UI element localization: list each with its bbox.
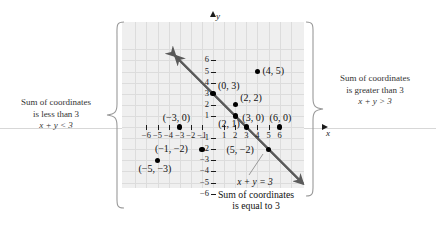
- y-axis-tick: [211, 149, 216, 150]
- data-point-label: (−3, 0): [163, 112, 190, 123]
- y-axis-tick: [211, 83, 216, 84]
- bottom-caption-line2: is equal to 3: [196, 200, 316, 212]
- y-axis-tick: [211, 138, 216, 139]
- annotation-right-line2: is greater than 3: [322, 85, 428, 97]
- y-tick-label: −6: [195, 189, 209, 198]
- annotation-left-line1: Sum of coordinates: [10, 97, 102, 109]
- data-point-label: (5, −2): [227, 144, 254, 155]
- y-tick-label: −5: [195, 178, 209, 187]
- annotation-left-equation: x + y < 3: [10, 120, 102, 132]
- data-point: [244, 124, 249, 129]
- data-point-label: (6, 0): [270, 112, 292, 123]
- data-point: [277, 124, 282, 129]
- y-axis-tick: [211, 183, 216, 184]
- data-point: [177, 124, 182, 129]
- data-point-label: (0, 3): [218, 80, 240, 91]
- y-axis-tick: [211, 60, 216, 61]
- figure-root: Sum of coordinates is less than 3 x + y …: [0, 0, 436, 227]
- annotation-right: Sum of coordinates is greater than 3 x +…: [322, 73, 428, 108]
- y-tick-label: 5: [195, 67, 209, 76]
- data-point-label: (4, 5): [262, 65, 284, 76]
- gridline-horizontal: [122, 49, 304, 50]
- line-equation-caption: x + y = 3: [215, 177, 295, 189]
- y-tick-label: −3: [195, 155, 209, 164]
- data-point: [210, 91, 215, 96]
- x-axis-tick: [169, 125, 170, 130]
- y-tick-label: 2: [195, 100, 209, 109]
- y-axis-tick: [211, 105, 216, 106]
- annotation-right-line1: Sum of coordinates: [322, 73, 428, 85]
- annotation-left: Sum of coordinates is less than 3 x + y …: [10, 97, 102, 132]
- data-point: [199, 147, 204, 152]
- x-axis-tick: [269, 125, 270, 130]
- x-axis-label: x: [326, 128, 330, 138]
- x-axis-tick: [257, 125, 258, 130]
- data-point: [266, 147, 271, 152]
- x-axis-tick: [158, 125, 159, 130]
- data-point-label: (2, 1): [218, 118, 240, 129]
- y-axis-label: y: [216, 11, 220, 21]
- y-tick-label: −1: [195, 133, 209, 142]
- y-axis-tick: [211, 194, 216, 195]
- data-point-label: (−1, −2): [155, 143, 188, 154]
- y-tick-label: 3: [195, 89, 209, 98]
- right-brace: [304, 20, 326, 198]
- x-tick-label: 6: [273, 131, 287, 140]
- y-axis-tick: [211, 72, 216, 73]
- x-axis-tick: [191, 125, 192, 130]
- data-point-label: (2, 2): [240, 92, 262, 103]
- data-point-label: (−5, −3): [139, 163, 172, 174]
- y-tick-label: 6: [195, 55, 209, 64]
- x-axis-tick: [202, 125, 203, 130]
- annotation-left-line2: is less than 3: [10, 109, 102, 121]
- y-tick-label: 4: [195, 78, 209, 87]
- x-axis-tick: [146, 125, 147, 130]
- data-point-label: (3, 0): [242, 112, 264, 123]
- y-tick-label: 1: [195, 111, 209, 120]
- y-axis-tick: [211, 171, 216, 172]
- left-brace: [104, 20, 126, 210]
- y-axis-tick: [211, 116, 216, 117]
- y-axis-tick: [211, 160, 216, 161]
- annotation-right-equation: x + y > 3: [322, 96, 428, 108]
- y-tick-label: −4: [195, 166, 209, 175]
- bottom-caption-line1: Sum of coordinates: [196, 189, 316, 201]
